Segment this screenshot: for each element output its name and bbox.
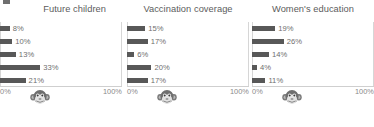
bar-value-label: 21% <box>29 76 44 85</box>
bar-row: 4% <box>252 62 374 73</box>
chimp-icon <box>282 89 302 106</box>
bar-row: European journalists 13% <box>0 49 122 60</box>
plot-area: 15% 17% 6% 20% <box>127 22 249 94</box>
panel-title: Women's education <box>252 4 374 14</box>
bar-row: 26% <box>252 36 374 47</box>
bar-value-label: 33% <box>43 63 58 72</box>
bar-value-label: 11% <box>268 76 283 85</box>
bar <box>252 39 284 45</box>
panel-vaccination-coverage: Vaccination coverage 15% 17% <box>127 4 249 124</box>
bar-rows: 15% 17% 6% 20% <box>127 22 249 87</box>
bar-row: 17% <box>127 75 249 86</box>
bar <box>0 26 10 32</box>
bar-row: 20% <box>127 62 249 73</box>
bar-row: 11% <box>252 75 374 86</box>
chimp-icon <box>157 89 177 106</box>
x-axis-tick-labels: 0% 100% <box>252 87 374 99</box>
chimp-icon <box>30 89 50 106</box>
bar <box>0 78 26 84</box>
figure: Future children UK 8% US 10% <box>0 0 374 127</box>
plot-area: 19% 26% 14% 4% <box>252 22 374 94</box>
bar <box>0 39 12 45</box>
panel-womens-education: Women's education 19% 26% <box>252 4 374 124</box>
bar-row: UK 8% <box>0 23 122 34</box>
panel-group: Future children UK 8% US 10% <box>0 0 374 127</box>
bar-value-label: 20% <box>154 63 169 72</box>
bar <box>127 78 148 84</box>
bar <box>252 78 265 84</box>
x-tick-min: 0% <box>0 87 11 96</box>
panel-title: Vaccination coverage <box>127 4 249 14</box>
x-tick-min: 0% <box>127 87 138 96</box>
x-axis-tick-labels: 0% 100% <box>0 87 122 99</box>
bar-row: US 10% <box>0 36 122 47</box>
bar-value-label: 4% <box>260 63 271 72</box>
x-tick-max: 100% <box>355 87 374 96</box>
bar-row: 19% <box>252 23 374 34</box>
bar-row: Factual filmmakers 21% <box>0 75 122 86</box>
bar <box>127 52 134 58</box>
bar-row: 6% <box>127 49 249 60</box>
bar-rows: UK 8% US 10% European journalists 13% <box>0 22 122 87</box>
bar-rows: 19% 26% 14% 4% <box>252 22 374 87</box>
bar-value-label: 6% <box>137 50 148 59</box>
plot-area: UK 8% US 10% European journalists 13% <box>0 22 122 94</box>
bar-row: 15% <box>127 23 249 34</box>
bar-value-label: 17% <box>151 37 166 46</box>
bar-value-label: 13% <box>19 50 34 59</box>
bar-value-label: 19% <box>278 24 293 33</box>
bar-row: 14% <box>252 49 374 60</box>
bar-row: 17% <box>127 36 249 47</box>
bar-value-label: 14% <box>272 50 287 59</box>
bar <box>127 26 145 32</box>
panel-future-children: Future children UK 8% US 10% <box>0 4 122 124</box>
bar <box>252 65 257 71</box>
bar <box>0 65 40 71</box>
bar <box>252 26 275 32</box>
bar-row: US journalists 33% <box>0 62 122 73</box>
panel-title: Future children <box>43 4 114 14</box>
x-tick-min: 0% <box>252 87 263 96</box>
bar <box>252 52 269 58</box>
x-tick-max: 100% <box>230 87 249 96</box>
bar <box>127 39 148 45</box>
bar-value-label: 15% <box>148 24 163 33</box>
x-tick-max: 100% <box>103 87 122 96</box>
bar-value-label: 8% <box>13 24 24 33</box>
bar-value-label: 10% <box>15 37 30 46</box>
bar-value-label: 17% <box>151 76 166 85</box>
bar-value-label: 26% <box>287 37 302 46</box>
bar <box>0 52 16 58</box>
bar <box>127 65 151 71</box>
x-axis-tick-labels: 0% 100% <box>127 87 249 99</box>
